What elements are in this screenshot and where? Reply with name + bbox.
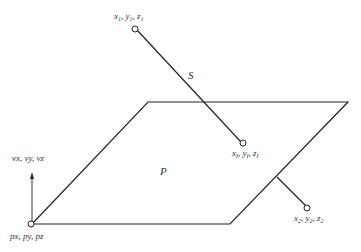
plane-p <box>32 102 348 224</box>
point-1-marker <box>132 26 138 32</box>
plane-point-marker <box>28 221 34 227</box>
label-intersection: xI, yI, zI <box>232 149 259 159</box>
label-plane-normal: vx, vy, vz <box>12 154 44 163</box>
segment-s-lower <box>277 177 307 207</box>
label-segment-s: S <box>188 70 194 81</box>
label-plane-point: px, py, pz <box>10 232 44 241</box>
point-2-marker <box>304 205 310 211</box>
intersection-marker <box>240 140 246 146</box>
segment-s-upper <box>137 30 241 142</box>
label-point-2: x2, y2, z2 <box>294 214 324 224</box>
label-point-1: x1, y1, z1 <box>114 12 144 22</box>
arrow-head-icon <box>30 172 34 179</box>
label-plane-p: P <box>160 166 167 177</box>
